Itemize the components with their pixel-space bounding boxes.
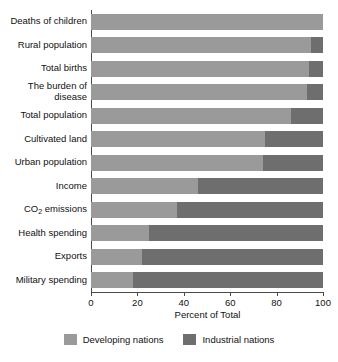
y-tick-label: Urban population [0, 157, 87, 168]
bar-row [91, 37, 323, 53]
bar-stack [91, 249, 323, 265]
bar-segment-industrial [263, 155, 323, 171]
bar-row [91, 178, 323, 194]
bar-row [91, 131, 323, 147]
bar-segment-industrial [311, 37, 323, 53]
bar-segment-developing [91, 202, 177, 218]
bar-row [91, 84, 323, 100]
bar-segment-industrial [149, 225, 323, 241]
legend-label: Industrial nations [202, 334, 274, 345]
x-tick-mark [137, 292, 138, 296]
bar-segment-developing [91, 131, 265, 147]
x-tick-label: 40 [179, 297, 190, 308]
bar-segment-developing [91, 272, 133, 288]
bar-segment-developing [91, 249, 142, 265]
bar-segment-industrial [309, 61, 323, 77]
bar-rows [91, 10, 323, 292]
bar-segment-industrial [177, 202, 323, 218]
bar-segment-developing [91, 178, 198, 194]
legend-swatch [183, 334, 196, 345]
bar-segment-developing [91, 155, 263, 171]
bar-segment-developing [91, 84, 307, 100]
x-tick-label: 80 [271, 297, 282, 308]
x-tick-label: 0 [88, 297, 93, 308]
y-tick-label: Total population [0, 110, 87, 121]
bar-stack [91, 225, 323, 241]
y-axis-tick-labels: Deaths of childrenRural populationTotal … [0, 10, 87, 292]
x-tick-label: 60 [225, 297, 236, 308]
bar-stack [91, 14, 323, 30]
bar-segment-industrial [133, 272, 323, 288]
y-tick-label: Rural population [0, 40, 87, 51]
x-tick-label: 20 [132, 297, 143, 308]
bar-segment-industrial [198, 178, 323, 194]
y-tick-label: Income [0, 181, 87, 192]
legend-item: Developing nations [64, 334, 164, 345]
subscript: 2 [38, 208, 42, 215]
bar-stack [91, 202, 323, 218]
legend-item: Industrial nations [183, 334, 274, 345]
legend-swatch [64, 334, 77, 345]
stacked-bar-chart: Deaths of childrenRural populationTotal … [0, 0, 338, 362]
bar-row [91, 272, 323, 288]
bar-stack [91, 37, 323, 53]
bar-stack [91, 84, 323, 100]
bar-stack [91, 108, 323, 124]
bar-row [91, 61, 323, 77]
bar-stack [91, 178, 323, 194]
legend-label: Developing nations [83, 334, 164, 345]
y-tick-label: Health spending [0, 228, 87, 239]
bar-segment-developing [91, 37, 311, 53]
bar-row [91, 14, 323, 30]
bar-segment-industrial [307, 84, 323, 100]
y-tick-label: Deaths of children [0, 16, 87, 27]
bar-row [91, 202, 323, 218]
x-tick-mark [184, 292, 185, 296]
y-tick-label: Military spending [0, 275, 87, 286]
bar-stack [91, 272, 323, 288]
bar-row [91, 108, 323, 124]
x-tick-label: 100 [315, 297, 331, 308]
y-tick-label: The burden of disease [0, 81, 87, 102]
x-tick-mark [230, 292, 231, 296]
bar-row [91, 249, 323, 265]
bar-segment-industrial [142, 249, 323, 265]
plot-area [91, 10, 323, 292]
x-axis-title: Percent of Total [91, 309, 324, 320]
chart-legend: Developing nationsIndustrial nations [0, 334, 338, 345]
x-tick-mark [277, 292, 278, 296]
bar-segment-industrial [291, 108, 323, 124]
bar-stack [91, 61, 323, 77]
bar-row [91, 225, 323, 241]
y-tick-label: Total births [0, 63, 87, 74]
y-tick-label: Cultivated land [0, 134, 87, 145]
bar-segment-developing [91, 14, 323, 30]
bar-stack [91, 155, 323, 171]
y-tick-label: Exports [0, 251, 87, 262]
x-tick-mark [91, 292, 92, 296]
y-tick-label: CO2 emissions [0, 204, 87, 216]
bar-segment-industrial [265, 131, 323, 147]
bar-segment-developing [91, 61, 309, 77]
bar-stack [91, 131, 323, 147]
bar-segment-developing [91, 225, 149, 241]
bar-row [91, 155, 323, 171]
x-tick-mark [323, 292, 324, 296]
bar-segment-developing [91, 108, 291, 124]
